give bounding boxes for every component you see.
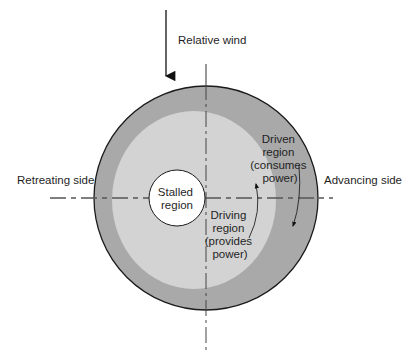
stalled-region	[149, 170, 205, 226]
rotor-disc-diagram: Relative wind Retreating side Advancing …	[0, 0, 406, 361]
relative-wind-label: Relative wind	[178, 34, 246, 46]
stalled-region-label: Stalled region	[158, 186, 196, 211]
advancing-side-label: Advancing side	[324, 174, 402, 186]
retreating-side-label: Retreating side	[17, 174, 94, 186]
